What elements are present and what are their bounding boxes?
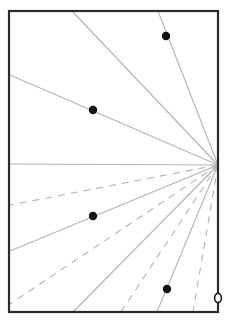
radial-ray-diagram — [0, 0, 226, 321]
dashed-ray-6 — [10, 165, 218, 304]
dashed-ray-4 — [10, 165, 218, 205]
filled-point-0 — [162, 32, 170, 40]
hollow-circle-marker — [215, 293, 222, 302]
filled-point-2 — [89, 212, 97, 220]
rays-layer — [10, 11, 218, 312]
diagram-stage — [0, 0, 226, 321]
solid-ray-0 — [72, 11, 218, 165]
solid-ray-5 — [10, 165, 218, 251]
frame-rectangle — [9, 11, 218, 312]
solid-ray-7 — [73, 165, 218, 312]
filled-point-1 — [89, 106, 97, 114]
filled-point-3 — [163, 285, 171, 293]
solid-ray-3 — [10, 164, 218, 165]
solid-ray-2 — [10, 75, 218, 165]
